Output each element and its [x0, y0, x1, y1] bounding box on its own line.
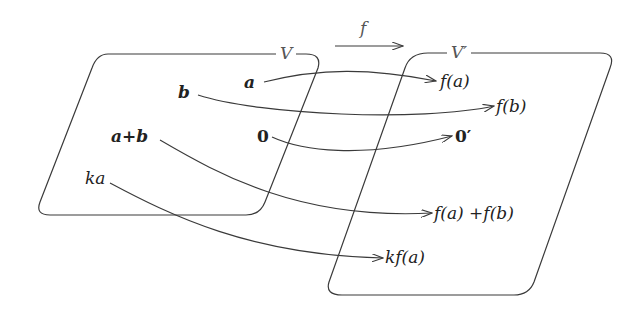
arrow-a-to-fa: [264, 71, 436, 82]
element-f-a-plus-f-b: f(a) +f(b): [434, 205, 514, 222]
arrow-0-to-0prime: [272, 136, 452, 151]
element-f-a: f(a): [440, 73, 470, 90]
element-b: b: [178, 84, 190, 101]
map-f-label: f: [360, 20, 366, 37]
element-ka: ka: [85, 170, 105, 187]
element-f-b: f(b): [496, 98, 526, 115]
element-zero: 0: [257, 128, 269, 145]
element-kf-a: kf(a): [385, 249, 425, 266]
arrow-aplusb-to-faplusfb: [160, 140, 432, 214]
element-a-plus-b: a+b: [111, 128, 148, 145]
element-a: a: [244, 74, 255, 91]
arrow-b-to-fb: [198, 95, 494, 115]
domain-space-label: V: [276, 45, 296, 62]
linear-map-diagram: [0, 0, 643, 319]
element-zero-prime: 0′: [455, 128, 471, 145]
codomain-space-label: V′: [447, 44, 471, 61]
domain-space-V-frame: [39, 54, 319, 215]
